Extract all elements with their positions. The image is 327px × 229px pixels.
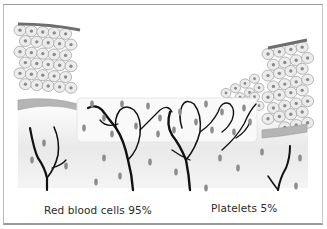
- cell-nucleus: [244, 82, 247, 85]
- cell-nucleus: [301, 89, 304, 92]
- cell-nucleus: [289, 113, 292, 116]
- cell-nucleus: [306, 78, 309, 81]
- cell-nucleus: [30, 29, 33, 32]
- cell-nucleus: [295, 102, 298, 105]
- blood-cell: [118, 173, 122, 180]
- caption-platelets: Platelets 5%: [211, 202, 277, 214]
- blood-cell: [260, 149, 264, 156]
- cell-nucleus: [35, 40, 38, 43]
- blood-cell: [220, 109, 224, 116]
- cell-nucleus: [283, 61, 286, 64]
- cell-nucleus: [18, 50, 21, 53]
- cell-nucleus: [225, 92, 228, 95]
- cell-nucleus: [306, 99, 309, 102]
- blood-cell: [248, 119, 252, 126]
- cell-nucleus: [295, 59, 298, 62]
- blood-cell: [156, 131, 160, 138]
- cell-nucleus: [47, 84, 50, 87]
- cell-nucleus: [234, 87, 237, 90]
- cell-nucleus: [289, 48, 292, 51]
- cell-nucleus: [258, 86, 261, 89]
- cell-nucleus: [69, 43, 72, 46]
- cell-nucleus: [41, 30, 44, 33]
- cell-nucleus: [30, 51, 33, 54]
- cell-nucleus: [35, 83, 38, 86]
- cell-nucleus: [64, 54, 67, 57]
- blood-cell: [236, 165, 240, 172]
- cell-nucleus: [69, 86, 72, 89]
- cell-nucleus: [18, 72, 21, 75]
- cell-nucleus: [278, 50, 281, 53]
- blood-cell: [294, 183, 298, 190]
- cell-nucleus: [266, 96, 269, 99]
- blood-cell: [30, 157, 34, 164]
- blood-cell: [178, 109, 182, 116]
- cell-nucleus: [278, 72, 281, 75]
- cell-nucleus: [248, 91, 251, 94]
- blood-cell: [194, 119, 198, 126]
- cell-nucleus: [30, 73, 33, 76]
- cell-nucleus: [289, 69, 292, 72]
- blood-cell: [120, 101, 124, 108]
- cell-nucleus: [272, 85, 275, 88]
- cell-nucleus: [53, 53, 56, 56]
- blood-cell: [102, 115, 106, 122]
- cell-nucleus: [301, 67, 304, 70]
- cell-nucleus: [47, 63, 50, 66]
- cell-nucleus: [266, 117, 269, 120]
- blood-cell: [298, 155, 302, 162]
- cell-nucleus: [258, 104, 261, 107]
- blood-cell: [204, 185, 208, 192]
- blood-cell: [42, 140, 46, 147]
- cell-nucleus: [295, 80, 298, 83]
- cell-nucleus: [253, 77, 256, 80]
- cell-nucleus: [47, 41, 50, 44]
- blood-cell: [90, 101, 94, 108]
- blood-cell: [210, 127, 214, 134]
- cell-nucleus: [53, 74, 56, 77]
- cell-nucleus: [69, 65, 72, 68]
- cell-nucleus: [24, 82, 27, 85]
- cell-nucleus: [306, 56, 309, 59]
- blood-cell: [242, 105, 246, 112]
- blood-cell: [134, 123, 138, 130]
- blood-cell: [204, 101, 208, 108]
- cell-nucleus: [24, 39, 27, 42]
- blood-cell: [218, 155, 222, 162]
- cell-nucleus: [272, 63, 275, 66]
- cell-nucleus: [283, 82, 286, 85]
- blood-cell: [110, 131, 114, 138]
- cell-nucleus: [35, 62, 38, 65]
- blood-cell: [174, 169, 178, 176]
- cell-nucleus: [41, 74, 44, 77]
- cell-nucleus: [266, 74, 269, 77]
- cell-nucleus: [58, 42, 61, 45]
- cell-nucleus: [58, 64, 61, 67]
- skin-illustration: [0, 0, 327, 229]
- cell-nucleus: [278, 115, 281, 118]
- cell-nucleus: [278, 93, 281, 96]
- cell-nucleus: [64, 75, 67, 78]
- blood-cell: [146, 103, 150, 110]
- caption-red-blood-cells: Red blood cells 95%: [44, 204, 152, 216]
- cell-nucleus: [24, 61, 27, 64]
- cell-nucleus: [266, 52, 269, 55]
- cell-nucleus: [41, 52, 44, 55]
- cell-nucleus: [18, 28, 21, 31]
- cell-nucleus: [301, 110, 304, 113]
- cell-nucleus: [53, 31, 56, 34]
- blood-cell: [64, 163, 68, 170]
- cell-nucleus: [64, 32, 67, 35]
- cell-nucleus: [301, 45, 304, 48]
- blood-cell: [94, 179, 98, 186]
- blood-cell: [172, 127, 176, 134]
- cell-nucleus: [272, 106, 275, 109]
- blood-cell: [148, 159, 152, 166]
- cell-nucleus: [58, 85, 61, 88]
- blood-cell: [158, 115, 162, 122]
- blood-cell: [232, 129, 236, 136]
- epidermis-left: [14, 24, 80, 110]
- cell-nucleus: [283, 104, 286, 107]
- cell-nucleus: [289, 91, 292, 94]
- blood-cell: [102, 155, 106, 162]
